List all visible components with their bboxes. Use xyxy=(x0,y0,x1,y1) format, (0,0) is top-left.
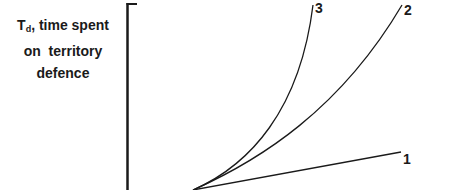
curve-3-label: 3 xyxy=(315,0,323,16)
curve-3 xyxy=(193,5,313,190)
curve-1 xyxy=(193,152,401,190)
curve-2-label: 2 xyxy=(404,2,412,18)
curve-2 xyxy=(193,5,402,190)
curve-1-label: 1 xyxy=(403,151,411,167)
diagram-canvas: 1 2 3 xyxy=(0,0,467,190)
